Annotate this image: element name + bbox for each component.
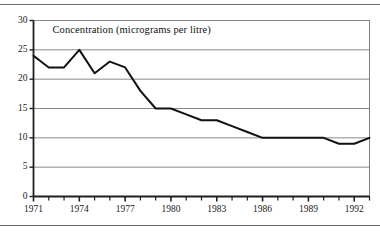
y-axis-tick-label: 30 <box>4 16 28 26</box>
line-chart-plot <box>0 0 380 235</box>
chart-figure: Concentration (micrograms per litre) 051… <box>0 0 380 235</box>
y-axis-tick-label: 10 <box>4 133 28 143</box>
y-axis-tick-label: 5 <box>4 162 28 172</box>
y-axis-tick-label: 20 <box>4 74 28 84</box>
x-axis-tick-label: 1989 <box>288 205 328 215</box>
x-axis-tick-label: 1983 <box>197 205 237 215</box>
x-axis-tick-label: 1974 <box>59 205 99 215</box>
x-axis-tick-label: 1992 <box>334 205 374 215</box>
y-axis-tick-label: 15 <box>4 104 28 114</box>
data-series-line <box>34 50 370 144</box>
x-axis-tick-label: 1977 <box>105 205 145 215</box>
x-axis-tick-label: 1986 <box>243 205 283 215</box>
x-axis-tick-label: 1980 <box>151 205 191 215</box>
y-axis-tick-label: 0 <box>4 192 28 202</box>
x-axis-tick-label: 1971 <box>14 205 54 215</box>
y-axis-tick-label: 25 <box>4 45 28 55</box>
